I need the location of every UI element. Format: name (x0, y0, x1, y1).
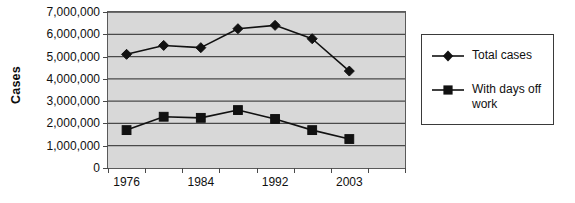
x-axis-tick (145, 168, 146, 173)
y-axis-tick (103, 101, 108, 102)
data-point-square (271, 115, 280, 124)
data-point-diamond (122, 49, 132, 59)
plot-svg (108, 12, 405, 168)
data-point-diamond (270, 20, 280, 30)
y-axis-tick (103, 57, 108, 58)
data-point-square (308, 126, 317, 135)
legend-item-total-cases: Total cases (430, 48, 532, 63)
legend-item-with-days-off-work: With days off work (430, 82, 541, 111)
x-axis-tick (331, 168, 332, 173)
data-point-diamond (196, 43, 206, 53)
y-axis-tick (103, 12, 108, 13)
x-tick-label: 2003 (319, 176, 379, 188)
y-tick-label: 6,000,000 (10, 28, 100, 40)
y-tick-label: 7,000,000 (10, 6, 100, 18)
chart-legend: Total cases With days off work (421, 34, 554, 125)
y-tick-label: 2,000,000 (10, 117, 100, 129)
plot-area (107, 11, 406, 169)
data-point-square (122, 126, 131, 135)
y-tick-label: 4,000,000 (10, 73, 100, 85)
data-point-diamond (159, 40, 169, 50)
y-tick-label: 1,000,000 (10, 140, 100, 152)
y-tick-label: 3,000,000 (10, 95, 100, 107)
x-tick-label: 1976 (97, 176, 157, 188)
x-axis-tick (108, 168, 109, 173)
data-point-square (234, 106, 243, 115)
x-axis-tick (182, 168, 183, 173)
legend-label: Total cases (472, 48, 532, 63)
x-tick-label: 1984 (171, 176, 231, 188)
y-axis-tick (103, 79, 108, 80)
y-axis-tick (103, 146, 108, 147)
data-point-square (196, 113, 205, 122)
data-point-square (159, 112, 168, 121)
line-chart-figure: Cases 7,000,0006,000,0005,000,0004,000,0… (0, 0, 575, 203)
y-axis-tick (103, 123, 108, 124)
x-axis-tick (257, 168, 258, 173)
diamond-marker-icon (430, 49, 466, 63)
y-tick-label: 5,000,000 (10, 51, 100, 63)
legend-label: With days off work (472, 82, 541, 111)
x-axis-tick (219, 168, 220, 173)
square-marker-icon (430, 83, 466, 97)
y-axis-tick (103, 168, 108, 169)
data-point-diamond (233, 24, 243, 34)
x-tick-label: 1992 (245, 176, 305, 188)
x-axis-tick (405, 168, 406, 173)
y-tick-label: 0 (10, 162, 100, 174)
y-axis-tick (103, 34, 108, 35)
x-axis-tick (368, 168, 369, 173)
x-axis-tick (294, 168, 295, 173)
data-point-square (345, 135, 354, 144)
y-axis-tick-labels: 7,000,0006,000,0005,000,0004,000,0003,00… (10, 0, 100, 203)
